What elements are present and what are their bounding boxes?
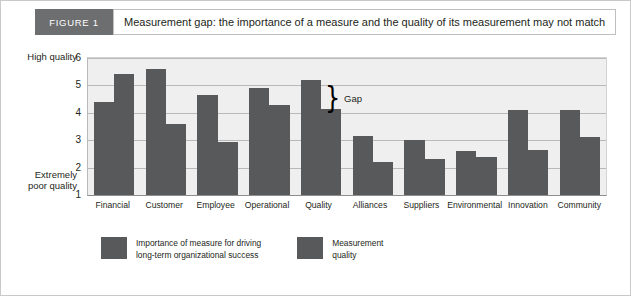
y-axis-tick-label: 5	[75, 79, 81, 90]
bar-quality	[166, 124, 186, 195]
bar-group	[295, 58, 347, 195]
bar-importance	[560, 110, 580, 195]
bar-importance	[508, 110, 528, 195]
bar-importance	[197, 95, 217, 195]
x-axis-labels: FinancialCustomerEmployeeOperationalQual…	[87, 200, 605, 210]
x-axis-label: Customer	[138, 200, 189, 210]
bar-group-inner	[508, 58, 548, 195]
bar-quality	[476, 157, 496, 195]
figure-container: FIGURE 1 Measurement gap: the importance…	[0, 0, 631, 296]
bar-groups	[88, 58, 606, 195]
legend-label: Measurement quality	[332, 237, 383, 261]
gap-annotation: } Gap	[323, 83, 362, 113]
brace-icon: }	[325, 83, 340, 113]
y-axis-ticks: 123456	[59, 57, 81, 194]
bar-quality	[528, 150, 548, 195]
figure-title: Measurement gap: the importance of a mea…	[124, 16, 605, 28]
legend-item: Measurement quality	[297, 237, 383, 261]
bar-quality	[114, 74, 134, 195]
bar-group-inner	[560, 58, 600, 195]
bar-group	[88, 58, 140, 195]
figure-header: FIGURE 1 Measurement gap: the importance…	[35, 9, 616, 35]
x-axis-label: Environmental	[447, 200, 502, 210]
bar-group	[502, 58, 554, 195]
legend-swatch	[101, 237, 127, 259]
bar-group-inner	[456, 58, 496, 195]
x-axis-label: Operational	[241, 200, 292, 210]
bar-group	[554, 58, 606, 195]
y-axis-tick-label: 4	[75, 106, 81, 117]
bar-group	[243, 58, 295, 195]
bar-quality	[425, 159, 445, 195]
x-axis-label: Suppliers	[396, 200, 447, 210]
bar-quality	[218, 142, 238, 195]
x-axis-label: Community	[554, 200, 605, 210]
bar-group	[140, 58, 192, 195]
bar-group-inner	[353, 58, 393, 195]
bar-group	[451, 58, 503, 195]
figure-number-badge: FIGURE 1	[35, 9, 113, 35]
legend-item: Importance of measure for driving long-t…	[101, 237, 261, 261]
bar-group-inner	[146, 58, 186, 195]
bar-importance	[249, 88, 269, 195]
x-axis-label: Employee	[190, 200, 241, 210]
x-axis-label: Innovation	[502, 200, 553, 210]
bar-group-inner	[197, 58, 237, 195]
bar-importance	[404, 140, 424, 195]
x-axis-label: Alliances	[344, 200, 395, 210]
bar-group	[347, 58, 399, 195]
bar-importance	[94, 102, 114, 195]
bar-group-inner	[301, 58, 341, 195]
gap-annotation-label: Gap	[344, 93, 362, 104]
bar-importance	[301, 80, 321, 195]
y-axis-tick-label: 1	[75, 189, 81, 200]
figure-title-box: Measurement gap: the importance of a mea…	[113, 9, 616, 35]
bar-quality	[373, 162, 393, 195]
y-axis-tick-label: 2	[75, 161, 81, 172]
legend-label: Importance of measure for driving long-t…	[136, 237, 261, 261]
bar-importance	[353, 136, 373, 195]
bar-group	[399, 58, 451, 195]
chart-legend: Importance of measure for driving long-t…	[101, 237, 383, 261]
x-axis-label: Quality	[293, 200, 344, 210]
bar-group	[192, 58, 244, 195]
bar-group-inner	[94, 58, 134, 195]
bar-group-inner	[249, 58, 289, 195]
bar-quality	[580, 137, 600, 195]
legend-swatch	[297, 237, 323, 259]
plot-area	[87, 57, 607, 196]
y-axis-tick-label: 6	[75, 52, 81, 63]
x-axis-label: Financial	[87, 200, 138, 210]
figure-number-label: FIGURE 1	[49, 17, 98, 28]
bar-group-inner	[404, 58, 444, 195]
bar-importance	[456, 151, 476, 195]
bar-quality	[321, 109, 341, 195]
y-axis-tick-label: 3	[75, 134, 81, 145]
bar-quality	[269, 105, 289, 195]
bar-importance	[146, 69, 166, 195]
